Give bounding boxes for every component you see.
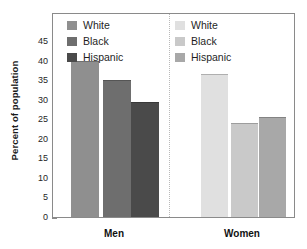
y-tick-label-25: 25 [24,115,48,124]
y-tick-label-15: 15 [24,154,48,163]
legend-label: Hispanic [83,50,123,65]
y-tick-label-0: 0 [24,213,48,222]
y-tick-label-10: 10 [24,174,48,183]
y-tick-label-35: 35 [24,76,48,85]
bar-men-black [103,80,131,217]
group-label-men: Men [72,228,156,239]
legend-swatch-icon-hispanic [175,53,185,62]
legend-label: White [83,18,110,33]
legend-label: Black [191,34,217,49]
y-tick-label-20: 20 [24,135,48,144]
y-tick-label-5: 5 [24,193,48,202]
plot-area: WhiteBlackHispanic WhiteBlackHispanic [52,13,295,218]
bar-women-white [201,74,228,217]
bar-men-white [71,61,99,217]
bar-chart-figure: Percent of population 051015202530354045… [0,0,307,249]
bar-men-hispanic [131,102,159,217]
bar-women-hispanic [259,117,286,217]
legend-label: White [191,18,218,33]
legend-swatch-icon-hispanic [67,53,77,62]
legend-label: Hispanic [191,50,231,65]
group-divider [169,14,170,217]
legend-swatch-icon-white [67,21,77,30]
y-tick-label-45: 45 [24,37,48,46]
legend-swatch-icon-black [67,37,77,46]
y-tick-label-40: 40 [24,57,48,66]
y-axis-title: Percent of population [9,31,20,191]
y-tick-label-30: 30 [24,96,48,105]
group-label-women: Women [200,228,284,239]
bar-women-black [231,123,258,217]
legend-swatch-icon-white [175,21,185,30]
legend-swatch-icon-black [175,37,185,46]
y-tick-mark-0 [52,218,57,219]
legend-label: Black [83,34,109,49]
